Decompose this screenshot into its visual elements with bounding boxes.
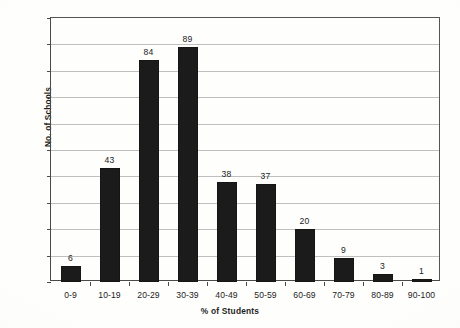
y-tick-mark [47, 44, 51, 45]
bar [61, 266, 81, 282]
bar [412, 279, 432, 282]
bar [217, 182, 237, 282]
x-tick-label: 90-100 [398, 290, 446, 300]
x-axis-title: % of Students [0, 306, 460, 316]
bar [256, 184, 276, 282]
bar-value-label: 3 [365, 261, 401, 271]
x-tick-mark [246, 282, 247, 286]
bar-value-label: 84 [131, 47, 167, 57]
y-tick-mark [47, 150, 51, 151]
x-tick-mark [207, 282, 208, 286]
x-tick-mark [168, 282, 169, 286]
x-tick-mark [402, 282, 403, 286]
gridline [51, 97, 439, 98]
bar [334, 258, 354, 282]
bar-value-label: 43 [92, 155, 128, 165]
bar [295, 229, 315, 282]
bar [100, 168, 120, 282]
gridline [51, 124, 439, 125]
y-tick-mark [47, 203, 51, 204]
gridline [51, 71, 439, 72]
y-tick-mark [47, 176, 51, 177]
y-tick-mark [47, 229, 51, 230]
y-tick-mark [47, 97, 51, 98]
x-tick-mark [285, 282, 286, 286]
bar-value-label: 6 [53, 253, 89, 263]
gridline [51, 150, 439, 151]
x-tick-mark [363, 282, 364, 286]
y-tick-mark [47, 256, 51, 257]
gridline [51, 44, 439, 45]
bar-value-label: 9 [326, 245, 362, 255]
x-tick-mark [90, 282, 91, 286]
x-tick-mark [129, 282, 130, 286]
bar-value-label: 89 [170, 34, 206, 44]
bar [373, 274, 393, 282]
bar [139, 60, 159, 282]
y-tick-mark [47, 282, 51, 283]
x-tick-mark [324, 282, 325, 286]
y-tick-mark [47, 18, 51, 19]
plot-area: 0102030405060708090100 6438489383720931 … [50, 17, 440, 281]
bar-value-label: 20 [287, 216, 323, 226]
bar-chart: No. of Schools 0102030405060708090100 64… [0, 0, 460, 328]
y-tick-mark [47, 124, 51, 125]
y-tick-mark [47, 71, 51, 72]
bar-value-label: 37 [248, 171, 284, 181]
bar [178, 47, 198, 282]
bar-value-label: 1 [404, 266, 440, 276]
bar-value-label: 38 [209, 169, 245, 179]
